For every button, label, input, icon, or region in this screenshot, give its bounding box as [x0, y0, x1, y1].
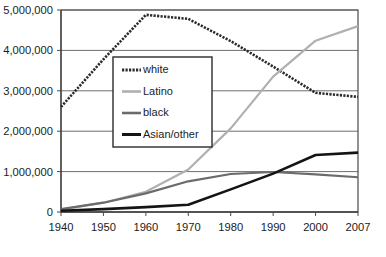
- x-tick-label: 1950: [91, 221, 116, 233]
- legend-label-white: white: [142, 63, 169, 75]
- y-tick-label: 4,000,000: [3, 44, 53, 56]
- y-tick-label: 3,000,000: [3, 85, 53, 97]
- legend-label-latino: Latino: [143, 85, 173, 97]
- x-tick-label: 1960: [133, 221, 158, 233]
- y-axis-tick-labels: 01,000,0002,000,0003,000,0004,000,0005,0…: [3, 4, 53, 218]
- x-axis-tick-labels: 19401950196019701980199020002007: [49, 221, 371, 233]
- y-tick-label: 0: [47, 206, 53, 218]
- y-tick-label: 2,000,000: [3, 125, 53, 137]
- x-tick-label: 1970: [176, 221, 201, 233]
- x-tick-label: 2007: [346, 221, 371, 233]
- x-tick-label: 1940: [49, 221, 74, 233]
- chart-legend: whiteLatinoblackAsian/other: [113, 57, 212, 147]
- y-tick-label: 1,000,000: [3, 166, 53, 178]
- x-tick-label: 2000: [303, 221, 328, 233]
- line-chart: 01,000,0002,000,0003,000,0004,000,0005,0…: [0, 0, 386, 257]
- x-tick-label: 1980: [218, 221, 243, 233]
- y-tick-label: 5,000,000: [3, 4, 53, 16]
- x-tick-label: 1990: [261, 221, 286, 233]
- series-line-black: [61, 172, 358, 209]
- legend-label-asian-other: Asian/other: [143, 128, 199, 140]
- chart-container: 01,000,0002,000,0003,000,0004,000,0005,0…: [0, 0, 386, 257]
- legend-label-black: black: [143, 106, 169, 118]
